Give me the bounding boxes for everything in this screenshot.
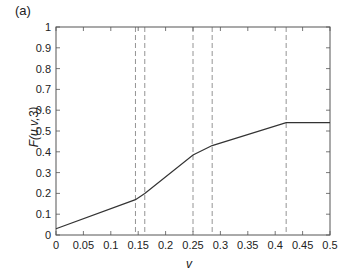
y-tick-label: 0.9 xyxy=(36,42,51,54)
y-tick-label: 0.3 xyxy=(36,167,51,179)
y-tick-label: 0.4 xyxy=(36,146,51,158)
y-tick-label: 0.5 xyxy=(36,125,51,137)
x-tick-label: 0.3 xyxy=(213,239,228,251)
x-tick-label: 0.45 xyxy=(292,239,313,251)
x-tick-label: 0.5 xyxy=(322,239,337,251)
x-tick-label: 0.1 xyxy=(103,239,118,251)
x-tick-label: 0.05 xyxy=(73,239,94,251)
y-tick-label: 0.8 xyxy=(36,63,51,75)
y-tick-label: 0.6 xyxy=(36,104,51,116)
vertical-dashed-lines xyxy=(135,27,286,235)
y-tick-label: 0 xyxy=(45,229,51,241)
line-chart: 00.050.10.150.20.250.30.350.40.450.5 00.… xyxy=(0,0,348,275)
x-tick-label: 0 xyxy=(53,239,59,251)
x-tick-label: 0.15 xyxy=(127,239,148,251)
x-tick-label: 0.2 xyxy=(158,239,173,251)
y-tick-label: 0.7 xyxy=(36,83,51,95)
y-tick-label: 0.1 xyxy=(36,208,51,220)
x-tick-label: 0.4 xyxy=(268,239,283,251)
y-tick-label: 1 xyxy=(45,21,51,33)
x-tick-label: 0.25 xyxy=(182,239,203,251)
x-axis-ticks: 00.050.10.150.20.250.30.350.40.450.5 xyxy=(53,27,338,251)
y-tick-label: 0.2 xyxy=(36,187,51,199)
x-tick-label: 0.35 xyxy=(237,239,258,251)
